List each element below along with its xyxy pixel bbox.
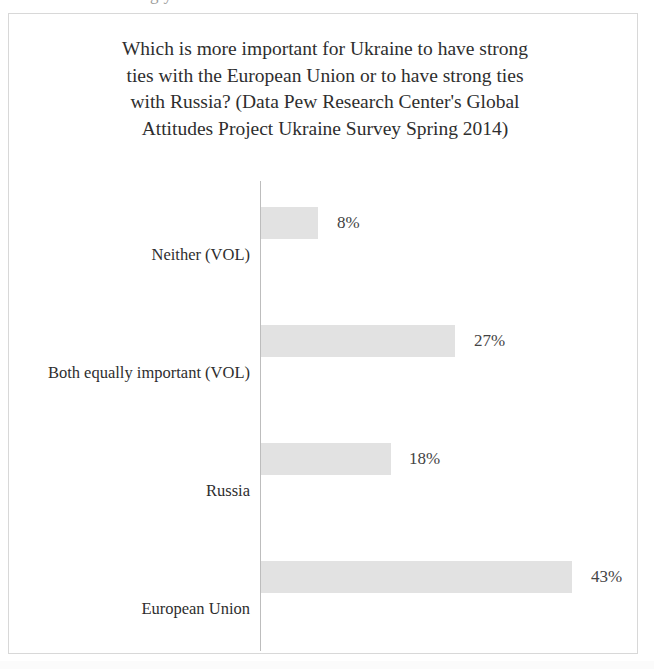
top-edge-bleed: g y	[0, 0, 654, 12]
bottom-edge-bleed	[0, 661, 654, 669]
bar-value-european-union: 43%	[591, 565, 622, 589]
top-partial-text: g y	[150, 0, 172, 5]
category-label-russia: Russia	[0, 479, 250, 503]
bar-group-european-union: 43% European Union	[9, 535, 639, 653]
bar-european-union[interactable]	[261, 561, 572, 593]
bar-group-both-equally-important: 27% Both equally important (VOL)	[9, 299, 639, 417]
category-label-both-equally-important: Both equally important (VOL)	[0, 361, 250, 385]
bar-neither[interactable]	[261, 207, 318, 239]
bar-value-russia: 18%	[409, 447, 440, 471]
category-label-european-union: European Union	[0, 597, 250, 621]
bar-both-equally-important[interactable]	[261, 325, 455, 357]
bar-group-russia: 18% Russia	[9, 417, 639, 535]
bar-value-neither: 8%	[337, 211, 360, 235]
bar-value-both-equally-important: 27%	[474, 329, 505, 353]
bar-russia[interactable]	[261, 443, 391, 475]
chart-frame: Which is more important for Ukraine to h…	[8, 13, 638, 654]
category-label-neither: Neither (VOL)	[0, 243, 250, 267]
bar-group-neither: 8% Neither (VOL)	[9, 181, 639, 299]
plot-area: 8% Neither (VOL) 27% Both equally import…	[9, 14, 639, 655]
